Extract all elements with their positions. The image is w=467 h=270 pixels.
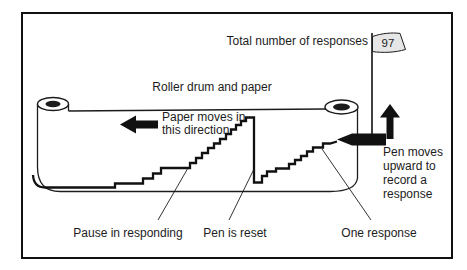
diagram-canvas: 97 Total number of responses Roller drum… (0, 0, 467, 270)
reset-label: Pen is reset (203, 226, 267, 240)
pen-body (352, 134, 386, 146)
pause-label: Pause in responding (73, 226, 182, 240)
pen-moves-label-line1: Pen moves (383, 145, 443, 159)
pen-moves-label-line4: response (383, 187, 433, 201)
roller-drum-label: Roller drum and paper (152, 80, 271, 94)
right-roller-hole (333, 104, 350, 111)
left-roller-hole (46, 101, 61, 107)
one-response-label: One response (341, 226, 417, 240)
cumulative-recorder-diagram: 97 Total number of responses Roller drum… (0, 0, 467, 270)
pen-moves-label-line3: record a (383, 173, 427, 187)
paper-direction-label-line1: Paper moves in (162, 110, 245, 124)
pen-moves-label-line2: upward to (383, 159, 436, 173)
paper-direction-label-line2: this direction (162, 123, 229, 137)
total-responses-label: Total number of responses (227, 34, 368, 48)
flag-count: 97 (382, 37, 395, 49)
